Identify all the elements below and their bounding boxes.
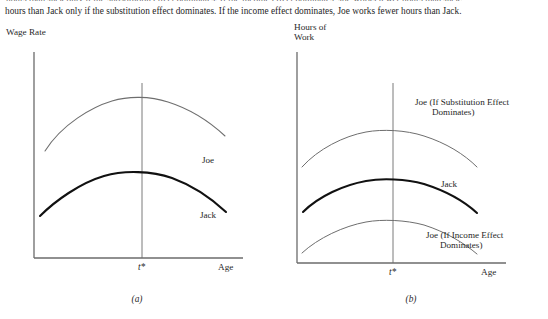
- panel-b-label-joe-substitution-line2: Dominates): [432, 107, 474, 118]
- panel-a-tstar-label: t*: [138, 262, 145, 272]
- panel-a-plot: [0, 26, 274, 319]
- panel-b-tstar-label: t*: [389, 267, 396, 277]
- paragraph-line: hours than Jack only if the substitution…: [5, 6, 462, 17]
- chart-panel-b: Hours of Work Joe (If Substitution Effec…: [274, 26, 548, 319]
- panel-b-y-axis-label-line1: Hours of: [294, 22, 326, 33]
- panel-a-y-axis-label: Wage Rate: [6, 27, 46, 38]
- panel-b-caption: (b): [274, 294, 548, 304]
- paragraph-clipped-line: hours than Jack only if the substitution…: [6, 0, 548, 1]
- figure-area: Wage Rate Joe Jack t* Age (a) Hours of W…: [0, 26, 548, 319]
- panel-b-label-jack: Jack: [441, 179, 457, 190]
- panel-b-label-joe-income-line1: Joe (If Income Effect: [426, 230, 503, 241]
- panel-b-x-axis-label: Age: [481, 267, 496, 278]
- panel-a-label-joe: Joe: [202, 155, 214, 166]
- panel-b-plot: [274, 26, 548, 319]
- panel-a-curve-joe: [45, 97, 225, 151]
- panel-b-curve-joe-substitution: [302, 130, 477, 167]
- panel-b-label-joe-substitution-line1: Joe (If Substitution Effect: [415, 97, 509, 108]
- chart-panel-a: Wage Rate Joe Jack t* Age (a): [0, 26, 274, 319]
- panel-b-y-axis-label-line2: Work: [294, 32, 314, 43]
- panel-a-curve-jack: [40, 172, 226, 216]
- panel-b-label-joe-income-line2: Dominates): [440, 240, 482, 251]
- panel-a-x-axis-label: Age: [218, 262, 233, 273]
- panel-a-label-jack: Jack: [200, 210, 216, 221]
- panel-a-caption: (a): [0, 294, 274, 304]
